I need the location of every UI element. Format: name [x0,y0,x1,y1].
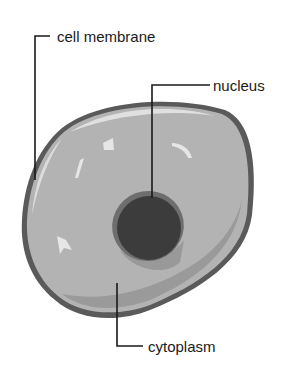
cell-body [22,102,254,318]
cell-diagram [0,0,292,378]
label-nucleus: nucleus [213,78,265,93]
label-cytoplasm: cytoplasm [148,339,216,354]
label-cell-membrane: cell membrane [57,29,155,44]
